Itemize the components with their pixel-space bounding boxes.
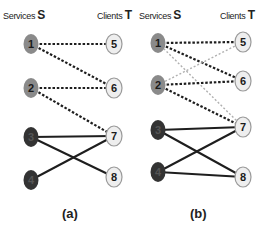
edge-1-6 — [31, 44, 114, 88]
edge-2-7 — [158, 85, 243, 127]
service-node-1: 1 — [151, 33, 166, 53]
service-node-2: 2 — [24, 78, 39, 98]
service-node-2: 2 — [151, 75, 166, 95]
panel-a: 12345678 — [24, 34, 123, 190]
edge-3-7 — [31, 136, 114, 137]
client-node-8: 8 — [235, 167, 251, 187]
client-node-6: 6 — [106, 78, 122, 98]
service-node-4: 4 — [151, 162, 166, 182]
service-node-3: 3 — [24, 127, 39, 147]
edge-2-6 — [158, 81, 243, 85]
svg-text:5: 5 — [240, 36, 246, 48]
client-node-6: 6 — [235, 71, 251, 91]
svg-text:7: 7 — [240, 121, 246, 133]
svg-text:2: 2 — [28, 82, 34, 94]
edge-4-8 — [158, 172, 243, 177]
edge-3-8 — [158, 130, 243, 177]
panel-b-caption: (b) — [190, 206, 207, 221]
svg-text:6: 6 — [111, 82, 117, 94]
client-node-8: 8 — [106, 167, 122, 187]
client-node-5: 5 — [106, 34, 122, 54]
svg-text:6: 6 — [240, 75, 246, 87]
edge-1-5 — [158, 42, 243, 43]
edge-1-7 — [158, 43, 243, 127]
service-node-3: 3 — [151, 120, 166, 140]
panel-b: 12345678 — [151, 32, 252, 187]
service-node-4: 4 — [24, 170, 39, 190]
svg-text:3: 3 — [155, 124, 161, 136]
svg-text:8: 8 — [240, 171, 246, 183]
panel-a-caption: (a) — [62, 206, 78, 221]
svg-text:4: 4 — [28, 174, 35, 186]
client-node-7: 7 — [106, 126, 122, 146]
svg-text:1: 1 — [28, 38, 34, 50]
svg-text:2: 2 — [155, 79, 161, 91]
service-node-1: 1 — [24, 34, 39, 54]
svg-text:8: 8 — [111, 171, 117, 183]
edge-2-7 — [31, 88, 114, 136]
svg-text:3: 3 — [28, 131, 34, 143]
bipartite-diagram: 1234567812345678 — [0, 0, 258, 236]
edge-4-7 — [158, 127, 243, 172]
client-node-5: 5 — [235, 32, 251, 52]
svg-text:7: 7 — [111, 130, 117, 142]
svg-text:4: 4 — [155, 166, 162, 178]
client-node-7: 7 — [235, 117, 251, 137]
svg-text:5: 5 — [111, 38, 117, 50]
svg-text:1: 1 — [155, 37, 161, 49]
edge-3-7 — [158, 127, 243, 130]
